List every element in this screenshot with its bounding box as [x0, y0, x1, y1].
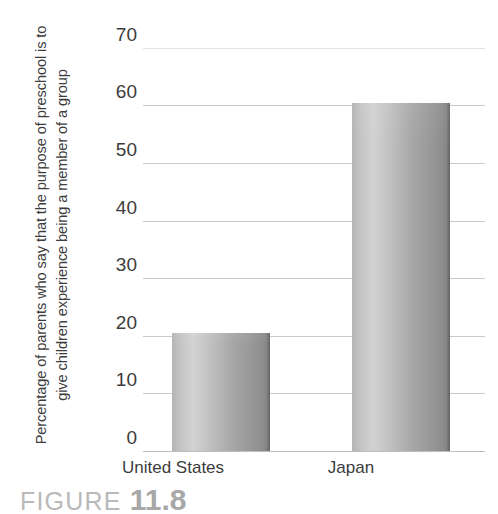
y-tick-60: 60 [95, 82, 137, 105]
plot-area [143, 48, 485, 451]
figure-caption-number: 11.8 [130, 483, 187, 514]
y-tick-70: 70 [95, 25, 137, 48]
bar-united-states[interactable] [172, 333, 270, 451]
y-axis-label-container: Percentage of parents who say that the p… [0, 0, 104, 470]
bar-edge-japan [447, 103, 450, 451]
gridline-0-baseline [143, 451, 485, 452]
y-tick-20: 20 [95, 313, 137, 336]
gridline-70 [143, 48, 485, 49]
x-category-label-united-states: United States [122, 458, 220, 478]
y-tick-50: 50 [95, 140, 137, 163]
y-tick-40: 40 [95, 198, 137, 221]
x-category-label-japan: Japan [302, 458, 400, 478]
y-tick-0: 0 [95, 428, 137, 451]
bar-japan[interactable] [352, 103, 450, 451]
y-axis-label: Percentage of parents who say that the p… [31, 20, 72, 450]
figure-caption: FIGURE 11.8 [20, 483, 187, 514]
y-axis-tick-labels: 0 10 20 30 40 50 60 70 [95, 48, 137, 451]
y-tick-10: 10 [95, 370, 137, 393]
y-tick-30: 30 [95, 255, 137, 278]
bar-edge-united-states [267, 333, 270, 451]
figure-caption-prefix: FIGURE [20, 487, 122, 514]
